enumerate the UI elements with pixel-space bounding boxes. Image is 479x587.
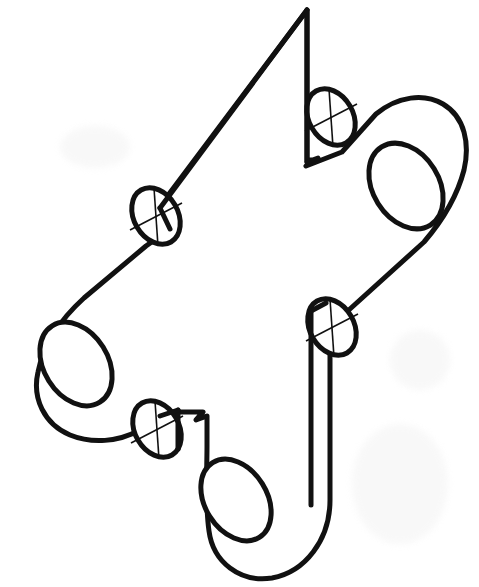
isometric-part-drawing (0, 0, 479, 587)
drawing-canvas: Isometric line drawing of a four-lobe me… (0, 0, 479, 587)
